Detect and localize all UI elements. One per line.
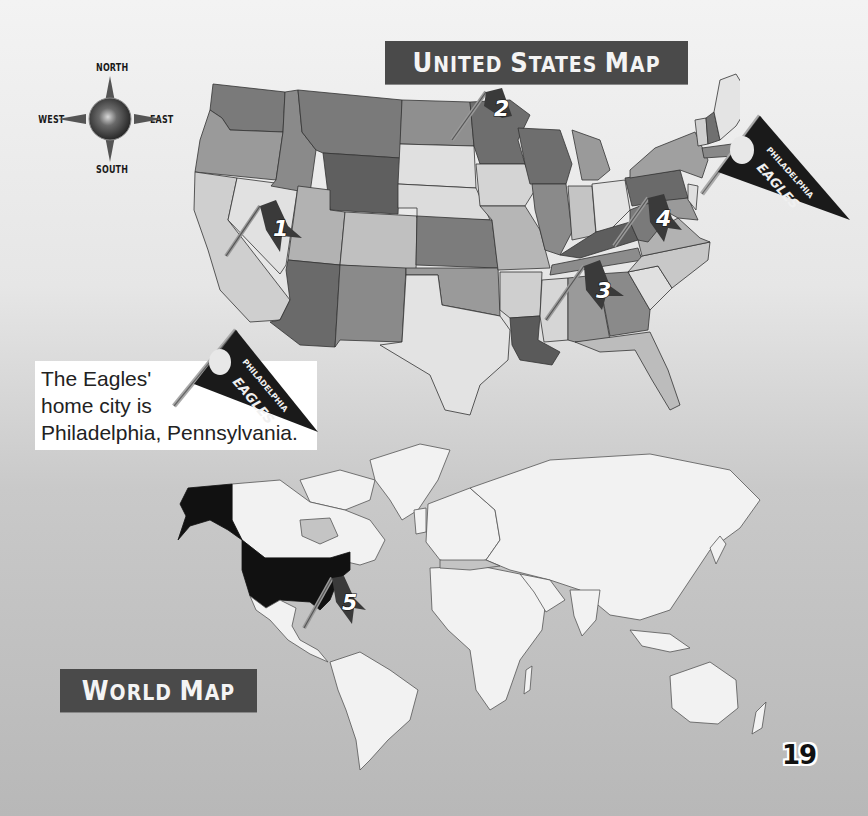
compass-rose-icon [58, 72, 162, 166]
australia [670, 662, 738, 724]
state-nebraska [398, 184, 490, 220]
state-michigan [572, 130, 610, 180]
compass: NORTH SOUTH WEST EAST [30, 62, 180, 182]
eagles-pennant-caption: PHILADELPHIA EAGLES [168, 326, 323, 436]
flag-number-5: 5 [342, 590, 357, 615]
eagle-helmet-icon [209, 349, 231, 375]
eagle-helmet-icon [730, 136, 754, 164]
eagles-pennant-us: PHILADELPHIA EAGLES [698, 110, 858, 230]
south-america [330, 652, 418, 770]
state-indiana [568, 186, 596, 240]
world-map-title-banner: WORLD MAP [60, 669, 257, 712]
flag-number-1: 1 [273, 216, 288, 241]
southeast-asia [630, 630, 690, 652]
world-flag-5[interactable]: 5 [300, 574, 370, 634]
world-map [170, 440, 780, 770]
flag-number-3: 3 [596, 278, 611, 303]
state-florida [575, 332, 680, 410]
alaska [178, 484, 242, 540]
flag-number-4: 4 [655, 206, 671, 231]
state-new-mexico [335, 265, 406, 347]
us-flag-2[interactable]: 2 [446, 86, 526, 156]
uk [414, 508, 426, 534]
madagascar [524, 666, 532, 694]
flag-number-2: 2 [494, 96, 509, 121]
state-iowa [476, 164, 535, 206]
page-number: 19 [782, 740, 816, 770]
state-colorado [340, 212, 417, 270]
state-new-york [630, 132, 708, 178]
state-wyoming [323, 153, 400, 214]
us-flag-3[interactable]: 3 [538, 260, 628, 340]
us-flag-4[interactable]: 4 [608, 188, 688, 258]
new-zealand [752, 702, 766, 734]
india [570, 590, 600, 636]
world-map-title: WORLD MAP [82, 675, 235, 706]
state-arkansas [500, 272, 542, 318]
state-kansas [416, 216, 498, 268]
us-flag-1[interactable]: 1 [220, 196, 310, 262]
